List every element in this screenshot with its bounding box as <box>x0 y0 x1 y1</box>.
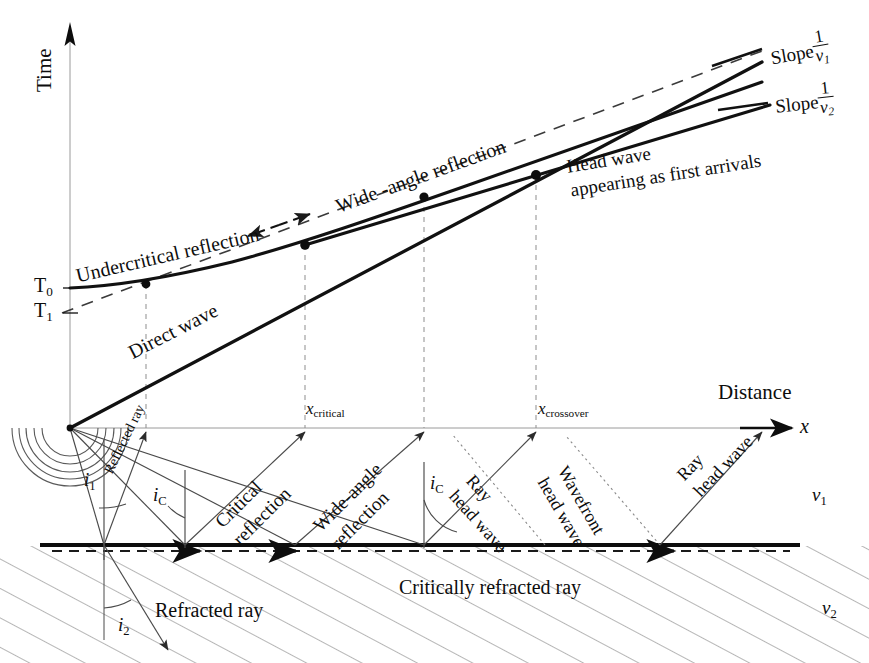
ray-paths <box>70 428 762 560</box>
y-axis-label: Time <box>34 48 55 92</box>
arc-i1 <box>99 504 126 508</box>
time-tick-T1: T1 <box>34 300 53 323</box>
slope-v2-numerator: 1 <box>816 78 834 99</box>
angle-label-ic-left: iC <box>153 485 167 507</box>
x-axis-label: Distance <box>718 382 791 403</box>
arc-ic-left <box>168 506 185 518</box>
critical-point <box>300 240 310 250</box>
slope-leaders <box>712 49 768 110</box>
angle-label-i1: i1 <box>84 470 96 492</box>
seismic-diagram-svg <box>0 0 869 663</box>
source-point <box>67 425 74 432</box>
label-refracted-ray: Refracted ray <box>155 600 263 620</box>
angle-label-ic-mid: iC <box>430 473 444 495</box>
angle-label-i2: i2 <box>118 615 130 637</box>
x-marker-critical: xcritical <box>306 400 345 419</box>
figure-canvas: Time Distance x T0 T1 xcritical xcrossov… <box>0 0 869 663</box>
undercritical-point <box>142 280 151 289</box>
wide-angle-point <box>419 192 428 201</box>
velocity-label-v2: v2 <box>822 598 837 620</box>
x-axis-symbol: x <box>800 416 809 436</box>
x-marker-crossover: xcrossover <box>538 400 589 419</box>
time-tick-T0: T0 <box>34 275 53 298</box>
crossover-point <box>531 170 541 180</box>
time-axis <box>65 22 76 428</box>
label-critically-refracted-ray: Critically refracted ray <box>399 577 581 597</box>
velocity-label-v1: v1 <box>812 485 827 507</box>
lower-layer-hatching <box>0 546 869 663</box>
label-slope-v2: Slope1v2 <box>773 78 836 124</box>
